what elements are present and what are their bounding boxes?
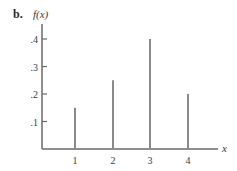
y-tick-label: .2 [31, 89, 39, 100]
x-ticks: 1234 [73, 155, 191, 166]
y-tick-label: .3 [31, 62, 39, 73]
y-axis-title: f(x) [33, 8, 49, 21]
panel-label: b. [13, 7, 23, 21]
x-tick-label: 2 [111, 155, 116, 166]
x-tick-label: 4 [186, 155, 191, 166]
x-tick-label: 1 [73, 155, 78, 166]
x-tick-label: 3 [148, 155, 153, 166]
x-axis-title: x [221, 142, 227, 154]
y-tick-label: .1 [31, 117, 39, 128]
bars [75, 39, 188, 149]
pmf-chart: b. f(x) x .1.2.3.4 1234 [0, 0, 237, 171]
y-ticks: .1.2.3.4 [31, 34, 48, 128]
y-tick-label: .4 [31, 34, 39, 45]
